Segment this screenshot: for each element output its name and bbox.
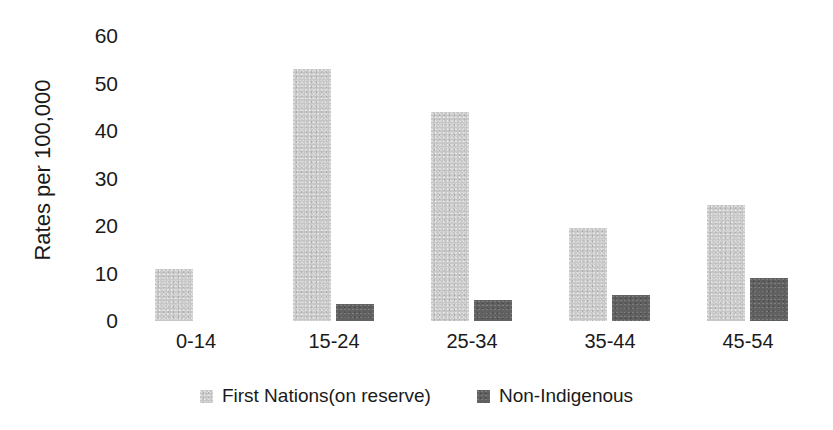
y-axis-tick-label: 40 — [95, 119, 118, 143]
legend-swatch-icon — [477, 390, 490, 403]
bar-group — [406, 36, 544, 321]
bar-group — [130, 36, 268, 321]
bar — [336, 304, 374, 321]
plot-area — [130, 36, 820, 321]
x-axis-tick-labels: 0-1415-2425-3435-4445-54 — [130, 330, 820, 360]
legend-label: First Nations(on reserve) — [222, 385, 431, 407]
bar — [431, 112, 469, 321]
bar — [155, 269, 193, 321]
legend-swatch-icon — [200, 390, 213, 403]
x-axis-tick-label: 15-24 — [308, 330, 359, 353]
y-axis-tick-label: 0 — [106, 309, 118, 333]
bar-chart: Rates per 100,000 0102030405060 0-1415-2… — [0, 0, 833, 430]
x-axis-tick-label: 45-54 — [722, 330, 773, 353]
x-axis-tick-label: 35-44 — [584, 330, 635, 353]
y-axis-tick-labels: 0102030405060 — [70, 0, 118, 430]
bar — [707, 205, 745, 321]
x-axis-tick-label: 0-14 — [176, 330, 216, 353]
bar-group — [268, 36, 406, 321]
y-axis-tick-label: 50 — [95, 72, 118, 96]
bar — [612, 295, 650, 321]
bar — [750, 278, 788, 321]
bar-group — [544, 36, 682, 321]
y-axis-tick-label: 60 — [95, 24, 118, 48]
legend-label: Non-Indigenous — [499, 385, 633, 407]
bar — [293, 69, 331, 321]
x-axis-tick-label: 25-34 — [446, 330, 497, 353]
y-axis-tick-label: 30 — [95, 167, 118, 191]
y-axis-tick-label: 20 — [95, 214, 118, 238]
y-axis-title: Rates per 100,000 — [18, 0, 68, 340]
legend-item[interactable]: Non-Indigenous — [477, 385, 633, 407]
bar-group — [682, 36, 820, 321]
bar — [569, 228, 607, 321]
chart-legend: First Nations(on reserve)Non-Indigenous — [0, 385, 833, 407]
y-axis-tick-label: 10 — [95, 262, 118, 286]
legend-item[interactable]: First Nations(on reserve) — [200, 385, 431, 407]
bar — [474, 300, 512, 321]
